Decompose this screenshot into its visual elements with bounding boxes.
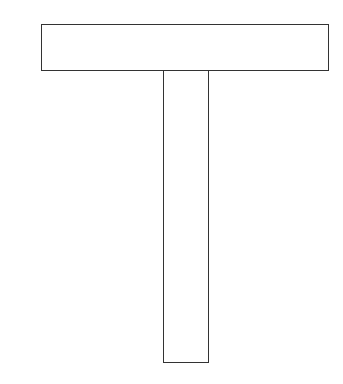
stem-rectangle: [163, 70, 209, 363]
diagram-canvas: [0, 0, 343, 384]
top-bar-rectangle: [41, 24, 329, 71]
